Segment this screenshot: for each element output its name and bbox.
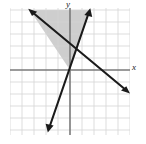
- y-axis-label: y: [66, 0, 70, 9]
- graph-canvas: [0, 0, 146, 144]
- coordinate-plane-graph: x y: [0, 0, 146, 144]
- x-axis-label: x: [132, 63, 136, 72]
